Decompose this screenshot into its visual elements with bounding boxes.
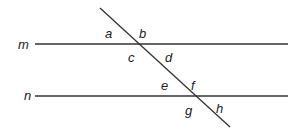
parallel-lines-diagram: m n a b c d e f g h [0,0,305,132]
angle-label-b: b [139,26,146,41]
line-label-n: n [24,88,31,103]
diagram-canvas: m n a b c d e f g h [0,0,305,132]
angle-label-e: e [161,78,168,93]
transversal-line [100,8,230,127]
angle-label-g: g [185,103,193,118]
angle-label-c: c [128,50,135,65]
angle-label-f: f [191,78,196,93]
line-label-m: m [18,37,29,52]
angle-label-a: a [105,26,112,41]
angle-label-h: h [216,101,223,116]
angle-label-d: d [165,50,173,65]
